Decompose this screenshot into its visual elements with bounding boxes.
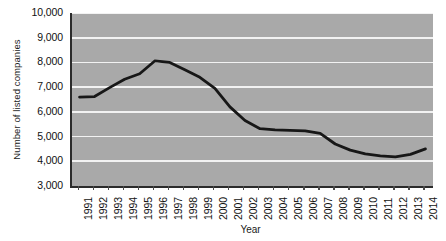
y-axis-tick-label: 3,000 (1, 180, 63, 191)
x-axis-tick-label: 2001 (232, 197, 244, 220)
x-axis-tick-label: 2002 (247, 197, 259, 220)
x-axis-tick-label: 2003 (262, 197, 274, 220)
y-axis-tick-label: 10,000 (1, 7, 63, 18)
y-axis-tick-label: 4,000 (1, 155, 63, 166)
y-axis-tick-label: 9,000 (1, 32, 63, 43)
x-axis-tick-label: 1995 (142, 197, 154, 220)
x-axis-tick-label: 1993 (112, 197, 124, 220)
x-axis-tick-label: 1997 (172, 197, 184, 220)
series-line-number-of-listed-companies (72, 13, 433, 186)
y-axis-tick-label: 8,000 (1, 56, 63, 67)
x-axis-tick-label: 2006 (307, 197, 319, 220)
y-axis-tick-label: 6,000 (1, 106, 63, 117)
x-axis-tick-label: 2000 (217, 197, 229, 220)
x-axis-tick-label: 2008 (337, 197, 349, 220)
y-axis-tick-label: 7,000 (1, 81, 63, 92)
x-axis-tick-label: 2014 (427, 197, 439, 220)
x-axis-tick-label: 1994 (127, 197, 139, 220)
x-axis-tick-label: 2010 (367, 197, 379, 220)
y-axis-tick-labels: 10,0009,0008,0007,0006,0005,0004,0003,00… (0, 0, 68, 241)
x-axis-tick-label: 1992 (97, 197, 109, 220)
y-axis-tick-label: 5,000 (1, 131, 63, 142)
plot-area (70, 13, 433, 188)
chart-figure: Number of listed companies 10,0009,0008,… (0, 0, 446, 241)
x-axis-label: Year (70, 224, 431, 235)
x-axis-tick-label: 2005 (292, 197, 304, 220)
x-axis-tick-label: 2007 (322, 197, 334, 220)
x-axis-tick-label: 1999 (202, 197, 214, 220)
x-axis-tick-label: 1996 (157, 197, 169, 220)
x-axis-tick-label: 1991 (82, 197, 94, 220)
x-axis-tick-label: 1998 (187, 197, 199, 220)
x-axis-tick-label: 2011 (382, 198, 394, 220)
x-axis-tick-label: 2004 (277, 197, 289, 220)
x-axis-tick-label: 2012 (397, 197, 409, 220)
x-axis-tick-label: 2013 (412, 197, 424, 220)
x-axis-tick-label: 2009 (352, 197, 364, 220)
